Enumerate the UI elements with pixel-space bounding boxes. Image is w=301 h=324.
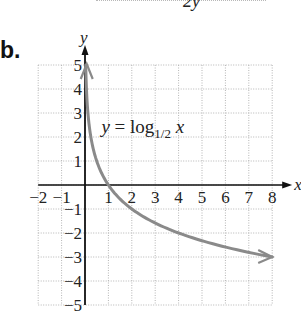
y-tick-label: −3 — [64, 248, 82, 267]
x-tick-label: 7 — [245, 188, 254, 207]
x-tick-label: 5 — [198, 188, 207, 207]
log-graph: xy −2−11234567854321−1−2−3−4−5 y = log1/… — [0, 0, 301, 324]
function-label: y = log1/2 x — [99, 116, 184, 141]
x-tick-label: 8 — [268, 188, 277, 207]
y-tick-label: 3 — [74, 104, 83, 123]
y-tick-label: 2 — [74, 128, 83, 147]
y-tick-label: −4 — [64, 272, 83, 291]
y-tick-label: −2 — [64, 224, 82, 243]
y-axis-label: y — [78, 28, 88, 47]
y-tick-label: −1 — [64, 200, 82, 219]
x-tick-label: 4 — [174, 188, 183, 207]
y-tick-label: 4 — [74, 80, 83, 99]
y-tick-label: −5 — [64, 296, 82, 315]
x-tick-label: 6 — [221, 188, 230, 207]
y-tick-label: 1 — [74, 152, 83, 171]
x-axis-arrow-icon — [282, 182, 292, 189]
y-tick-label: 5 — [74, 56, 83, 75]
x-tick-label: 3 — [151, 188, 160, 207]
x-axis-label: x — [293, 175, 301, 194]
x-tick-label: −2 — [29, 188, 47, 207]
x-tick-label: 2 — [128, 188, 137, 207]
